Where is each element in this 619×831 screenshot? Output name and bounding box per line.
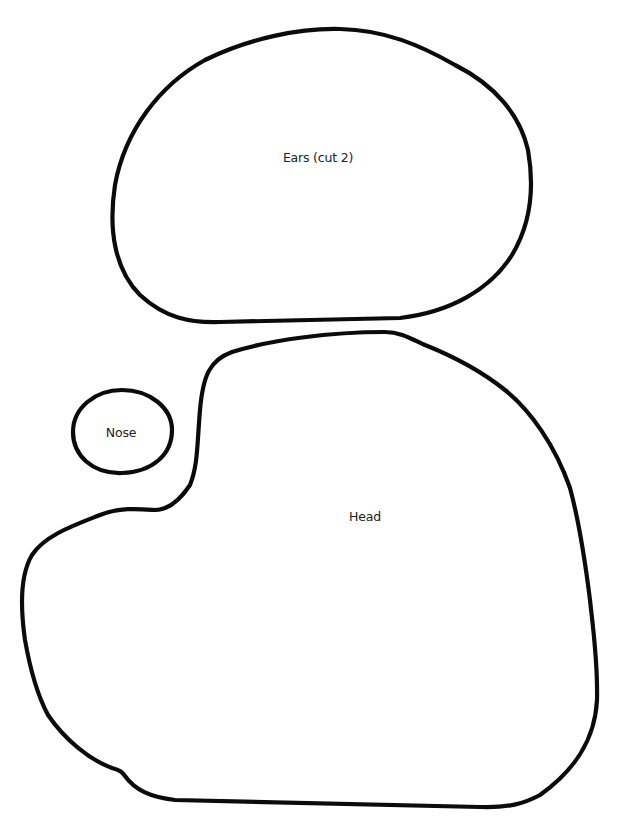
ears-label: Ears (cut 2) [283,150,353,165]
head-outline [22,332,597,807]
pattern-sheet [0,0,619,831]
head-label: Head [349,509,381,524]
ears-outline [112,29,531,322]
nose-label: Nose [106,425,136,440]
